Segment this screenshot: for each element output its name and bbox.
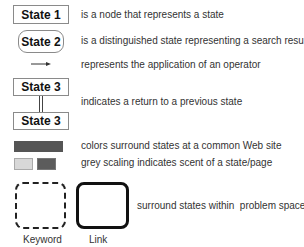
operator-arrow-icon xyxy=(30,60,52,68)
state-node-label: State 1 xyxy=(21,8,60,22)
problem-space-description: surround states within problem spaces xyxy=(137,200,304,211)
link-problem-space-box xyxy=(76,182,129,229)
search-result-state-description: is a distinguished state representing a … xyxy=(81,35,304,46)
return-state-top-box: State 3 xyxy=(13,78,69,96)
operator-description: represents the application of an operato… xyxy=(81,59,261,70)
keyword-problem-space-box xyxy=(15,182,66,229)
return-double-line-icon xyxy=(38,96,44,112)
state-node-box: State 1 xyxy=(13,5,69,24)
keyword-label: Keyword xyxy=(23,234,62,245)
web-site-color-swatch xyxy=(14,141,63,152)
return-state-bottom-label: State 3 xyxy=(21,114,60,128)
return-state-bottom-box: State 3 xyxy=(13,112,69,130)
state-node-description: is a node that represents a state xyxy=(81,9,224,20)
return-description: indicates a return to a previous state xyxy=(81,96,242,107)
scent-description: grey scaling indicates scent of a state/… xyxy=(81,157,272,168)
scent-dark-swatch xyxy=(37,158,56,170)
search-result-state-box: State 2 xyxy=(18,30,64,53)
return-state-top-label: State 3 xyxy=(21,80,60,94)
web-site-color-description: colors surround states at a common Web s… xyxy=(81,140,281,151)
link-label: Link xyxy=(89,234,107,245)
search-result-state-label: State 2 xyxy=(21,35,60,49)
scent-light-swatch xyxy=(14,158,33,170)
